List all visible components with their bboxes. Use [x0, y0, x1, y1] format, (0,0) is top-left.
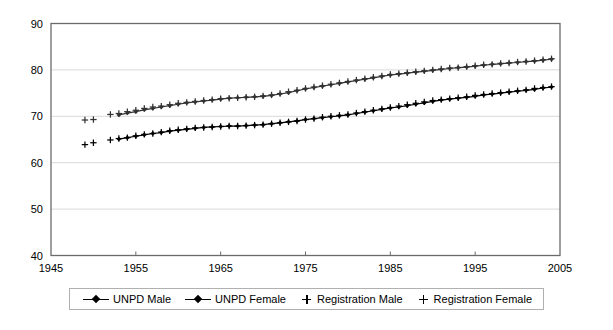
x-tick-label: 1995: [463, 262, 487, 274]
x-tick-label: 1955: [124, 262, 148, 274]
legend-label: UNPD Female: [215, 293, 286, 305]
series-registration-female: [82, 56, 555, 124]
series-registration-male: [82, 83, 555, 147]
series-line: [119, 59, 552, 115]
x-tick-label: 1985: [378, 262, 402, 274]
legend-label: UNPD Male: [113, 293, 171, 305]
chart-container: 405060708090 194519551965197519851995200…: [0, 0, 613, 330]
legend-line-marker-icon: [83, 295, 109, 304]
legend-entry: Registration Female: [417, 293, 532, 305]
y-tick-label: 60: [31, 157, 43, 169]
chart-canvas: 405060708090 194519551965197519851995200…: [0, 0, 613, 330]
legend-entry: Registration Male: [300, 293, 403, 305]
x-tick-label: 2005: [548, 262, 572, 274]
y-tick-label: 70: [31, 110, 43, 122]
legend-entry: UNPD Male: [83, 293, 171, 305]
y-tick-label: 90: [31, 18, 43, 30]
x-tick-label: 1965: [208, 262, 232, 274]
legend-line-marker-icon: [185, 295, 211, 304]
y-tick-label: 40: [31, 250, 43, 262]
x-tick-label: 1945: [39, 262, 63, 274]
legend-plus-marker-icon: [300, 294, 313, 305]
x-tick-label: 1975: [293, 262, 317, 274]
y-tick-label: 80: [31, 64, 43, 76]
series-unpd-male: [117, 85, 554, 142]
y-axis-tick-labels: 405060708090: [31, 18, 43, 262]
legend-plus-marker-icon: [417, 294, 430, 305]
legend-entry: UNPD Female: [185, 293, 286, 305]
chart-legend: UNPD MaleUNPD FemaleRegistration MaleReg…: [69, 288, 544, 310]
legend-label: Registration Female: [434, 293, 532, 305]
y-tick-label: 50: [31, 203, 43, 215]
series-unpd-female: [117, 57, 554, 117]
x-axis-tick-labels: 1945195519651975198519952005: [39, 262, 572, 274]
legend-label: Registration Male: [317, 293, 403, 305]
